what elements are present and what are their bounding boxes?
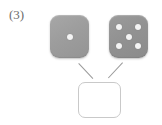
- connector-line-left: [78, 63, 93, 79]
- figure-label: (3): [9, 7, 24, 23]
- dice-sum-figure: (3): [0, 0, 162, 125]
- die-two-pip-top-left: [116, 24, 122, 30]
- die-one-pip-center: [67, 34, 73, 40]
- answer-box[interactable]: [78, 82, 121, 118]
- die-two: [109, 15, 148, 58]
- die-two-pip-bottom-right: [135, 43, 141, 49]
- die-one: [50, 15, 89, 58]
- connector-line-right: [108, 62, 123, 78]
- die-two-pip-center: [126, 34, 132, 40]
- die-two-pip-top-right: [135, 24, 141, 30]
- die-two-pip-bottom-left: [116, 43, 122, 49]
